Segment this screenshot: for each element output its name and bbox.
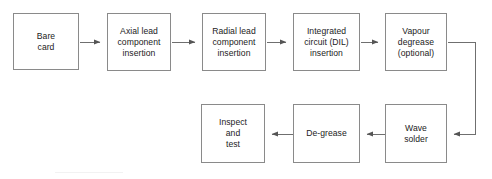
node-de-grease[interactable]: De-grease [293, 104, 360, 163]
node-label: Radial lead component insertion [209, 26, 259, 59]
node-label: Inspect and test [216, 117, 250, 150]
node-inspect-and-test[interactable]: Inspect and test [201, 104, 265, 163]
node-axial-lead-component-insertion[interactable]: Axial lead component insertion [107, 13, 171, 71]
node-label: Vapour degrease (optional) [395, 26, 437, 59]
node-label: Axial lead component insertion [115, 26, 164, 59]
node-wave-solder[interactable]: Wave solder [385, 104, 447, 163]
flowchart-diagram: Bare card Axial lead component insertion… [0, 0, 492, 179]
node-label: De-grease [303, 128, 350, 139]
scan-artifact-line [55, 172, 123, 173]
node-radial-lead-component-insertion[interactable]: Radial lead component insertion [202, 13, 266, 71]
node-label: Integrated circuit (DIL) insertion [301, 26, 352, 59]
node-label: Wave solder [401, 123, 431, 145]
node-integrated-circuit-insertion[interactable]: Integrated circuit (DIL) insertion [293, 13, 360, 71]
node-vapour-degrease[interactable]: Vapour degrease (optional) [385, 13, 447, 71]
edge-vapour-to-wave [448, 42, 476, 134]
node-label: Bare card [34, 31, 58, 53]
node-bare-card[interactable]: Bare card [13, 13, 79, 70]
